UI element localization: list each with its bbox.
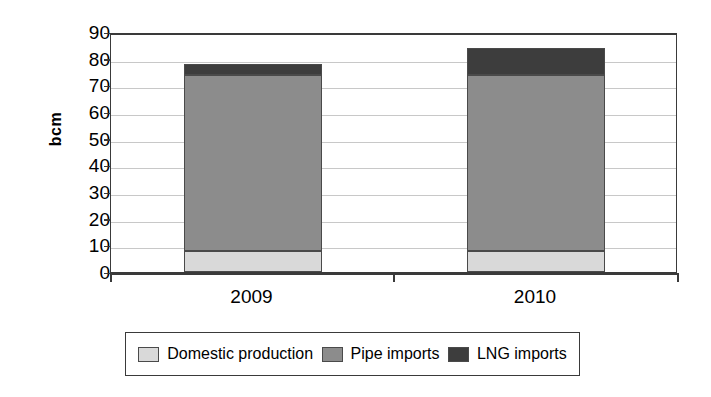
legend-label: Domestic production (167, 346, 313, 362)
legend-item[interactable]: Domestic production (138, 346, 313, 362)
chart-legend: Domestic productionPipe importsLNG impor… (125, 332, 580, 376)
legend-swatch-icon (322, 347, 343, 362)
bar-segment-domestic-production[interactable] (184, 251, 322, 272)
y-axis-tick-label: 90 (36, 23, 110, 42)
y-axis-tick-label: 20 (36, 210, 110, 229)
legend-swatch-icon (448, 347, 469, 362)
bar-2010[interactable] (467, 32, 605, 272)
bar-2009[interactable] (184, 32, 322, 272)
bar-segment-pipe-imports[interactable] (184, 75, 322, 251)
x-axis-tick-mark (677, 273, 679, 282)
legend-swatch-icon (138, 347, 159, 362)
x-axis-tick-label: 2010 (485, 286, 585, 308)
y-axis-tick-label: 50 (36, 130, 110, 149)
y-axis-tick-label: 0 (36, 263, 110, 282)
bar-segment-pipe-imports[interactable] (467, 75, 605, 251)
x-axis-tick-mark (110, 273, 112, 282)
bar-segment-lng-imports[interactable] (467, 48, 605, 75)
bar-segment-lng-imports[interactable] (184, 64, 322, 75)
legend-label: Pipe imports (351, 346, 440, 362)
legend-item[interactable]: LNG imports (448, 346, 567, 362)
y-axis-tick-label: 80 (36, 50, 110, 69)
legend-item[interactable]: Pipe imports (322, 346, 440, 362)
y-axis-tick-label: 10 (36, 236, 110, 255)
stacked-bar-chart: bcm 9080706050403020100 20092010 Domesti… (0, 0, 711, 397)
y-axis-tick-label: 60 (36, 103, 110, 122)
y-axis-tick-label: 30 (36, 183, 110, 202)
plot-area (110, 33, 677, 273)
legend-label: LNG imports (477, 346, 567, 362)
y-axis-tick-label: 70 (36, 76, 110, 95)
y-axis-tick-label: 40 (36, 156, 110, 175)
x-axis-tick-label: 2009 (202, 286, 302, 308)
x-axis-tick-mark (393, 273, 395, 282)
bar-segment-domestic-production[interactable] (467, 251, 605, 272)
y-axis-tick-group: 9080706050403020100 (20, 33, 110, 273)
